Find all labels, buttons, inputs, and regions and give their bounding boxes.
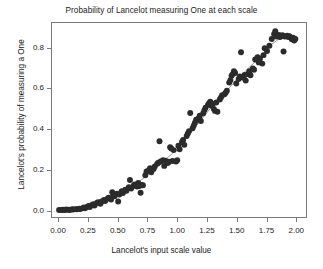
y-tick-mark bbox=[47, 129, 51, 130]
x-tick-mark bbox=[88, 218, 89, 222]
data-point bbox=[232, 70, 238, 76]
data-point bbox=[281, 49, 287, 55]
data-point bbox=[214, 109, 220, 115]
data-point bbox=[238, 49, 244, 55]
x-tick-label: 1.75 bbox=[252, 226, 282, 235]
x-tick-label: 0.50 bbox=[103, 226, 133, 235]
x-tick-mark bbox=[118, 218, 119, 222]
data-point bbox=[181, 142, 187, 148]
chart-figure: Probability of Lancelot measuring One at… bbox=[0, 0, 323, 269]
x-tick-label: 0.75 bbox=[132, 226, 162, 235]
x-tick-label: 1.50 bbox=[222, 226, 252, 235]
data-point bbox=[292, 36, 298, 42]
data-point bbox=[140, 182, 146, 188]
x-tick-mark bbox=[177, 218, 178, 222]
scatter-points-layer bbox=[56, 28, 298, 213]
data-point bbox=[224, 88, 230, 94]
x-tick-label: 1.00 bbox=[162, 226, 192, 235]
x-tick-label: 1.25 bbox=[192, 226, 222, 235]
plot-svg bbox=[52, 23, 306, 217]
data-point bbox=[187, 110, 193, 116]
y-tick-mark bbox=[47, 211, 51, 212]
data-point bbox=[251, 67, 257, 73]
data-point bbox=[115, 198, 121, 204]
x-axis-label: Lancelot's input scale value bbox=[0, 246, 323, 255]
y-axis-label: Lancelot's probability of measuring a On… bbox=[17, 15, 26, 215]
x-tick-label: 2.00 bbox=[281, 226, 311, 235]
data-point bbox=[127, 177, 133, 183]
chart-title: Probability of Lancelot measuring One at… bbox=[0, 6, 323, 15]
x-tick-mark bbox=[147, 218, 148, 222]
data-point bbox=[138, 190, 144, 196]
data-point bbox=[243, 78, 249, 84]
x-tick-label: 0.00 bbox=[43, 226, 73, 235]
x-tick-mark bbox=[296, 218, 297, 222]
x-tick-mark bbox=[58, 218, 59, 222]
x-tick-mark bbox=[237, 218, 238, 222]
y-tick-mark bbox=[47, 48, 51, 49]
data-point bbox=[264, 48, 270, 54]
plot-area bbox=[51, 22, 307, 218]
data-point bbox=[177, 146, 183, 152]
data-point bbox=[248, 72, 254, 78]
x-tick-mark bbox=[207, 218, 208, 222]
data-point bbox=[266, 43, 272, 49]
data-point bbox=[259, 61, 265, 67]
x-tick-mark bbox=[267, 218, 268, 222]
data-point bbox=[174, 157, 180, 163]
y-tick-mark bbox=[47, 88, 51, 89]
data-point bbox=[171, 147, 177, 153]
y-tick-mark bbox=[47, 170, 51, 171]
x-tick-label: 0.25 bbox=[73, 226, 103, 235]
data-point bbox=[198, 118, 204, 124]
data-point bbox=[157, 138, 163, 144]
